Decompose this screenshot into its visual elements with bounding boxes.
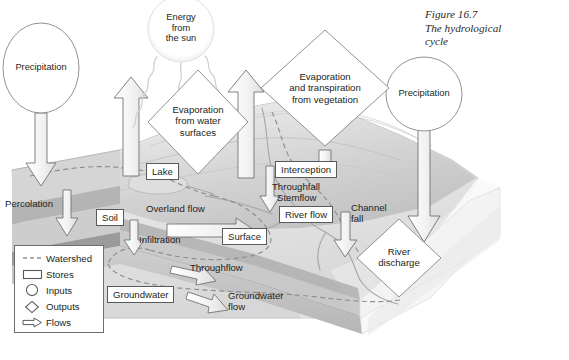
input-circle-icon xyxy=(22,283,46,297)
input-label-energy-from-the-sun: Energy from the sun xyxy=(151,12,211,44)
legend-label-watershed: Watershed xyxy=(46,253,92,264)
groundwater-flow-line2: flow xyxy=(228,301,298,312)
store-river-flow[interactable]: River flow xyxy=(279,206,333,223)
legend-item-outputs: Outputs xyxy=(22,299,103,315)
legend-label-inputs: Inputs xyxy=(46,285,72,296)
legend-item-inputs: Inputs xyxy=(22,282,103,298)
evap-veg-line1: Evaporation xyxy=(266,71,384,82)
legend-item-watershed: Watershed xyxy=(22,250,103,266)
store-lake[interactable]: Lake xyxy=(146,163,179,180)
legend-item-flows: Flows xyxy=(22,315,103,331)
river-discharge-line1: River xyxy=(361,246,437,257)
output-label-evapotranspiration-vegetation: Evaporation and transpiration from veget… xyxy=(266,71,384,105)
flow-label-percolation: Percolation xyxy=(5,198,53,209)
flow-arrow-icon xyxy=(22,317,46,328)
store-rectangle-icon xyxy=(22,269,46,280)
hydrological-cycle-figure: Figure 16.7 The hydrological cycle Preci… xyxy=(0,0,569,360)
legend-label-stores: Stores xyxy=(46,269,74,280)
figure-caption: Figure 16.7 The hydrological cycle xyxy=(425,8,565,49)
flow-label-overland-flow: Overland flow xyxy=(146,203,205,214)
flow-label-stemflow: Stemflow xyxy=(277,192,316,203)
store-interception[interactable]: Interception xyxy=(275,161,337,178)
evap-water-line3: surfaces xyxy=(154,127,242,138)
flow-label-throughfall: Throughfall xyxy=(272,181,320,192)
evap-veg-line2: and transpiration xyxy=(266,82,384,93)
input-label-precipitation-left: Precipitation xyxy=(3,62,79,73)
evap-water-line2: from water xyxy=(154,115,242,126)
legend-label-outputs: Outputs xyxy=(46,301,80,312)
sun-label-line3: the sun xyxy=(151,33,211,44)
output-diamond-icon xyxy=(22,300,46,314)
evap-water-line1: Evaporation xyxy=(154,104,242,115)
flow-label-channel-fall: Channel fall xyxy=(351,202,399,224)
sun-label-line1: Energy xyxy=(151,12,211,23)
figure-title-line2: cycle xyxy=(425,35,565,49)
legend-item-stores: Stores xyxy=(22,266,103,282)
flow-label-groundwater-flow: Groundwater flow xyxy=(228,290,298,312)
store-groundwater[interactable]: Groundwater xyxy=(107,286,174,303)
output-label-evaporation-water-surfaces: Evaporation from water surfaces xyxy=(154,104,242,138)
output-label-river-discharge: River discharge xyxy=(361,246,437,269)
legend-box: Watershed Stores Inputs xyxy=(14,245,104,333)
watershed-dashes-icon xyxy=(22,254,46,262)
sun-label-line2: from xyxy=(151,23,211,34)
river-discharge-line2: discharge xyxy=(361,257,437,268)
channel-fall-line1: Channel xyxy=(351,202,399,213)
store-soil[interactable]: Soil xyxy=(96,209,124,226)
figure-number: Figure 16.7 xyxy=(425,8,565,22)
flow-label-throughflow: Throughflow xyxy=(190,262,243,273)
channel-fall-line2: fall xyxy=(351,213,399,224)
legend-label-flows: Flows xyxy=(46,317,71,328)
figure-title-line1: The hydrological xyxy=(425,22,565,36)
store-surface[interactable]: Surface xyxy=(222,228,267,245)
evap-veg-line3: from vegetation xyxy=(266,94,384,105)
flow-label-infiltration: Infiltration xyxy=(139,234,181,245)
groundwater-flow-line1: Groundwater xyxy=(228,290,298,301)
input-label-precipitation-right: Precipitation xyxy=(386,88,462,99)
